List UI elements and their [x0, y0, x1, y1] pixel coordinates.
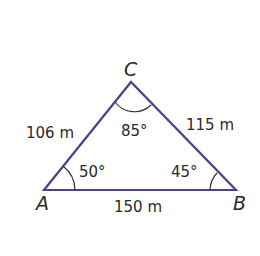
side-label-ac: 106 m [26, 124, 74, 142]
angle-arc-c [115, 102, 151, 112]
vertex-label-b: B [233, 192, 246, 214]
side-label-cb: 115 m [186, 116, 234, 134]
angle-label-a: 50° [79, 163, 106, 181]
angle-label-b: 45° [171, 163, 198, 181]
angle-arc-a [63, 166, 75, 190]
angle-arc-b [210, 173, 217, 190]
triangle-diagram: A B C 50° 45° 85° 106 m 115 m 150 m [0, 0, 260, 256]
vertex-label-a: A [34, 192, 49, 214]
angle-label-c: 85° [121, 122, 148, 140]
side-label-ab: 150 m [114, 198, 162, 216]
vertex-label-c: C [124, 58, 138, 80]
